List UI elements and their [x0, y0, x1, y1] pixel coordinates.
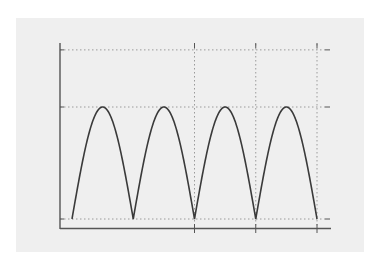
axes [60, 43, 331, 233]
rectified-sine-chart [0, 0, 375, 266]
rectified-sine-curve [72, 107, 317, 219]
gridlines [60, 44, 325, 228]
